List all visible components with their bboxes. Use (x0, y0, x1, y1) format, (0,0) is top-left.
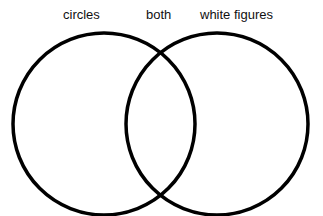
venn-circles (0, 0, 323, 216)
circle-left (13, 33, 195, 215)
circle-right (126, 33, 308, 215)
